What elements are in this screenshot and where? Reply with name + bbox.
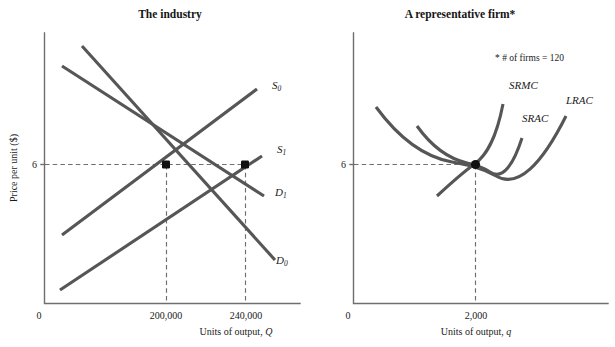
firm-ytick-label-6: 6 xyxy=(341,159,346,170)
firm-xtick-label-2000: 2,000 xyxy=(465,310,488,321)
industry-origin-label: 0 xyxy=(37,310,42,321)
economics-figure: The industry S0 S1 D1 xyxy=(0,0,615,347)
panel-firm: A representative firm* * # of firms = 12… xyxy=(341,8,608,337)
industry-equilibrium-point-1 xyxy=(241,161,249,169)
firm-x-axis-title: Units of output, q xyxy=(441,326,512,337)
curve-label-SRAC: SRAC xyxy=(522,112,549,124)
curve-label-S0: S0 xyxy=(272,79,282,93)
curve-SRMC xyxy=(437,104,503,196)
panel-firm-footnote: * # of firms = 120 xyxy=(495,53,564,63)
industry-x-axis-title: Units of output, Q xyxy=(200,326,274,337)
firm-equilibrium-point xyxy=(471,160,480,169)
industry-xtick-label-240000: 240,000 xyxy=(230,310,263,321)
curve-label-D0: D0 xyxy=(275,254,288,268)
curve-D0 xyxy=(82,46,275,260)
industry-ytick-label-6: 6 xyxy=(32,159,37,170)
curve-S1 xyxy=(60,156,262,290)
curve-label-D1: D1 xyxy=(274,186,287,200)
curve-label-SRMC: SRMC xyxy=(509,79,538,91)
panel-industry-title: The industry xyxy=(138,8,202,21)
industry-y-axis-title: Price per unit ($) xyxy=(8,134,20,202)
industry-axes xyxy=(45,33,301,304)
panel-industry: The industry S0 S1 D1 xyxy=(8,8,300,337)
curve-S0 xyxy=(62,89,257,235)
curve-label-LRAC: LRAC xyxy=(565,94,594,106)
curve-label-S1: S1 xyxy=(277,143,286,157)
panel-firm-title: A representative firm* xyxy=(405,8,516,21)
industry-equilibrium-point-0 xyxy=(162,161,170,169)
firm-origin-label: 0 xyxy=(346,310,351,321)
industry-xtick-label-200000: 200,000 xyxy=(150,310,183,321)
